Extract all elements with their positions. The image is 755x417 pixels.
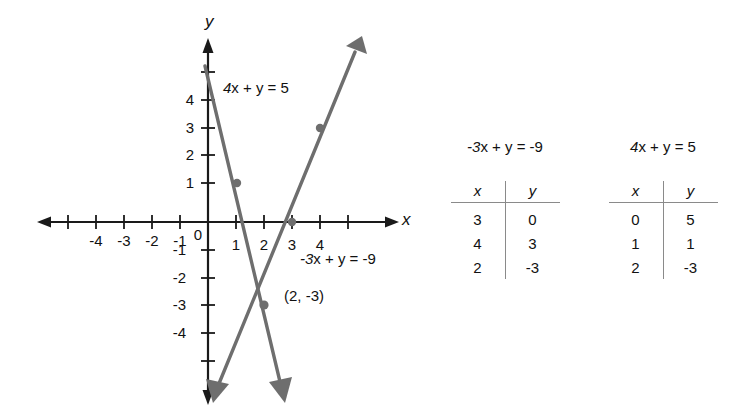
table2-r0-y: 5 bbox=[663, 203, 718, 232]
table2-r0-x: 0 bbox=[609, 203, 664, 232]
graph-equation-label-line2: -3x + y = -9 bbox=[300, 250, 376, 267]
table2-title-rest: x + y = 5 bbox=[638, 138, 696, 155]
table1-r2-y: -3 bbox=[505, 256, 560, 280]
data-point-4-3 bbox=[316, 124, 324, 132]
table-row: 3 0 bbox=[451, 203, 560, 232]
x-axis-label: x bbox=[402, 210, 411, 230]
table2-r2-x: 2 bbox=[609, 256, 664, 280]
value-table-line1-title: 4x + y = 5 bbox=[588, 138, 738, 155]
table1-header-y: y bbox=[505, 181, 560, 203]
table1-title-rest: x + y = -9 bbox=[480, 138, 543, 155]
table2-header-y: y bbox=[663, 181, 718, 203]
table-row: 1 1 bbox=[609, 232, 718, 256]
value-table-line1: 4x + y = 5 x y 0 5 1 1 2 -3 bbox=[588, 138, 738, 279]
table-row: 2 -3 bbox=[451, 256, 560, 280]
y-tick-label-1: 1 bbox=[170, 174, 194, 191]
table1-r1-x: 4 bbox=[451, 232, 506, 256]
table2-r1-x: 1 bbox=[609, 232, 664, 256]
y-tick-label-minus1: -1 bbox=[162, 241, 186, 258]
data-point-3-0 bbox=[288, 218, 296, 226]
table1-r1-y: 3 bbox=[505, 232, 560, 256]
coordinate-graph: y x -4 -3 -2 -1 0 1 2 3 4 4 3 2 1 -1 -2 … bbox=[0, 0, 430, 417]
table1-r2-x: 2 bbox=[451, 256, 506, 280]
table1-r0-y: 0 bbox=[505, 203, 560, 232]
intersection-point-marker bbox=[259, 300, 268, 309]
y-tick-label-minus2: -2 bbox=[162, 269, 186, 286]
x-tick-label-1: 1 bbox=[224, 236, 248, 253]
table1-r0-x: 3 bbox=[451, 203, 506, 232]
table-header-row: x y bbox=[609, 181, 718, 203]
value-table-line2-title: -3x + y = -9 bbox=[430, 138, 580, 155]
table-row: 4 3 bbox=[451, 232, 560, 256]
y-tick-label-4: 4 bbox=[170, 91, 194, 108]
x-tick-label-minus2: -2 bbox=[140, 232, 164, 249]
table2-header-x: x bbox=[609, 181, 664, 203]
table-row: 2 -3 bbox=[609, 256, 718, 280]
x-axis bbox=[37, 215, 399, 229]
line2-coefficient: -3 bbox=[300, 250, 313, 267]
graph-equation-label-line1: 4x + y = 5 bbox=[223, 79, 289, 96]
data-point-1-1 bbox=[233, 179, 241, 187]
x-tick-label-minus4: -4 bbox=[84, 232, 108, 249]
y-axis-label: y bbox=[205, 12, 214, 32]
line2-equation-rest: x + y = -9 bbox=[313, 250, 376, 267]
x-tick-label-minus3: -3 bbox=[112, 232, 136, 249]
table2-r2-y: -3 bbox=[663, 256, 718, 280]
origin-label: 0 bbox=[190, 226, 206, 243]
y-tick-label-minus3: -3 bbox=[162, 296, 186, 313]
line1-equation-rest: x + y = 5 bbox=[231, 79, 289, 96]
graph-canvas bbox=[0, 0, 430, 417]
y-tick-label-2: 2 bbox=[170, 146, 194, 163]
table-header-row: x y bbox=[451, 181, 560, 203]
table1-header-x: x bbox=[451, 181, 506, 203]
intersection-point-label: (2, -3) bbox=[284, 287, 324, 304]
y-tick-label-3: 3 bbox=[170, 119, 194, 136]
value-table-line2-grid: x y 3 0 4 3 2 -3 bbox=[451, 181, 560, 279]
table1-coefficient: -3 bbox=[467, 138, 480, 155]
figure-root: y x -4 -3 -2 -1 0 1 2 3 4 4 3 2 1 -1 -2 … bbox=[0, 0, 755, 417]
y-tick-label-minus4: -4 bbox=[162, 324, 186, 341]
table2-r1-y: 1 bbox=[663, 232, 718, 256]
table-row: 0 5 bbox=[609, 203, 718, 232]
x-tick-label-2: 2 bbox=[252, 236, 276, 253]
value-table-line2: -3x + y = -9 x y 3 0 4 3 2 -3 bbox=[430, 138, 580, 279]
value-table-line1-grid: x y 0 5 1 1 2 -3 bbox=[609, 181, 718, 279]
